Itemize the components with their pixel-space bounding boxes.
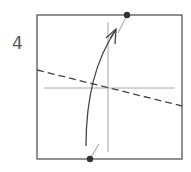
fold-diagram bbox=[0, 0, 191, 172]
paper-square bbox=[37, 15, 182, 159]
bottom-dot bbox=[87, 156, 93, 162]
top-dot bbox=[124, 12, 130, 18]
